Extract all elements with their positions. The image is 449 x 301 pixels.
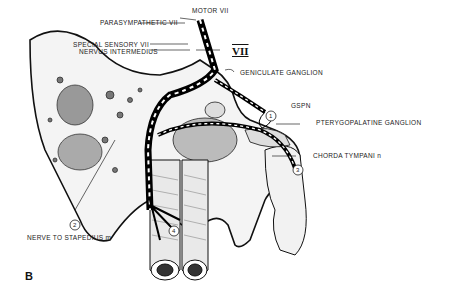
cranial-nerve-vii-label: VII — [232, 45, 249, 57]
geniculate-ganglion-label: GENICULATE GANGLION — [240, 70, 323, 77]
motor-label: MOTOR VII — [192, 8, 229, 15]
nerve-to-stapedius-label: NERVE TO STAPEDIUS m — [27, 235, 111, 242]
marker-2: 2 — [73, 222, 77, 228]
gspn-label: GSPN — [291, 103, 311, 110]
parasympathetic-label: PARASYMPATHETIC VII — [100, 20, 178, 27]
pterygopalatine-ganglion-label: PTERYGOPALATINE GANGLION — [316, 120, 421, 127]
marker-1: 1 — [269, 113, 273, 119]
nervus-intermedius-label: NERVUS INTERMEDIUS — [79, 49, 158, 56]
marker-3: 3 — [296, 167, 300, 173]
marker-4: 4 — [172, 228, 176, 234]
facial-nerve-illustration — [0, 0, 449, 301]
panel-label: B — [25, 270, 33, 282]
chorda-tympani-label: CHORDA TYMPANI n — [313, 153, 381, 160]
